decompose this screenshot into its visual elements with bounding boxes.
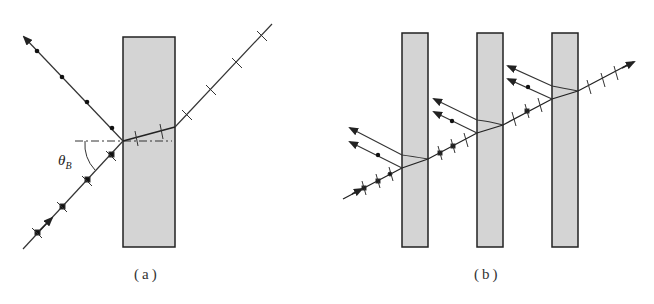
glass-plate-3 <box>552 33 578 247</box>
theta-subscript: B <box>65 160 71 171</box>
brewster-angle-label: θB <box>58 152 71 171</box>
panel-b <box>343 33 634 247</box>
glass-plate-2 <box>477 33 503 247</box>
panel-b-caption: (b) <box>474 266 501 283</box>
transmitted-ray <box>175 24 272 127</box>
panel-a <box>23 24 272 249</box>
angle-arc <box>85 141 95 170</box>
reflected-ray <box>24 37 123 141</box>
polarization-diagram <box>0 0 654 304</box>
glass-plate <box>123 37 175 247</box>
panel-a-caption: (a) <box>134 266 160 283</box>
glass-plate-1 <box>402 33 428 247</box>
